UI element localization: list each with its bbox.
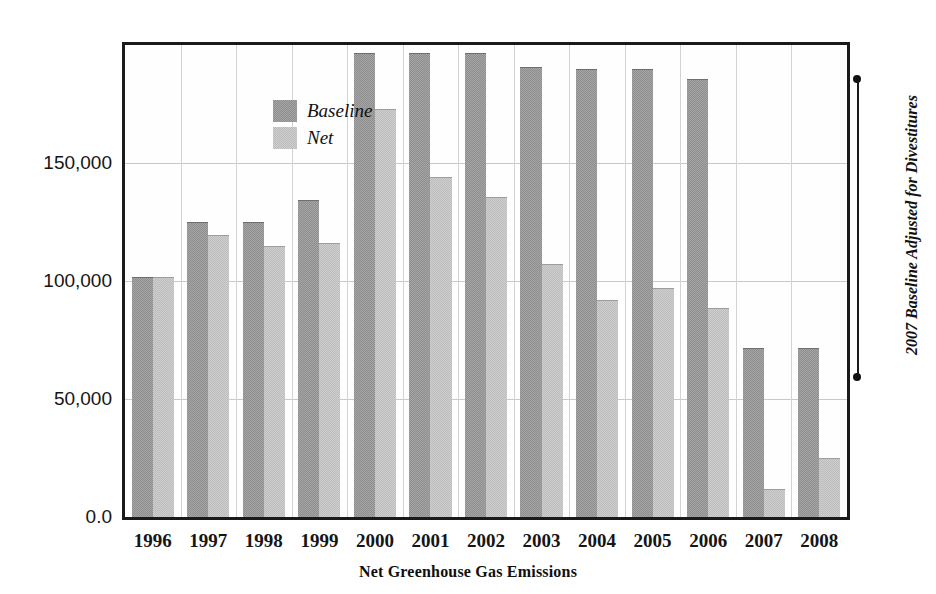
- bar-net-2004: [597, 300, 618, 517]
- gridline-vertical: [569, 45, 570, 517]
- x-axis-title: Net Greenhouse Gas Emissions: [0, 563, 936, 581]
- bar-net-1996: [153, 277, 174, 517]
- annotation-dot-bottom-icon: [853, 373, 861, 381]
- bar-net-2007: [764, 489, 785, 517]
- bar-net-2001: [430, 177, 451, 517]
- x-tick-label-2004: 2004: [566, 530, 628, 552]
- plot-frame: Baseline Net: [122, 42, 850, 520]
- x-tick-label-2006: 2006: [677, 530, 739, 552]
- y-tick-label: 0.0: [6, 506, 112, 528]
- bar-baseline-2005: [632, 69, 653, 517]
- chart-canvas: 150,000100,00050,0000.0 Baseline Net 199…: [0, 0, 936, 594]
- gridline-vertical: [458, 45, 459, 517]
- legend-item-baseline: Baseline: [273, 97, 372, 124]
- bar-net-2000: [375, 109, 396, 517]
- bar-net-2006: [708, 308, 729, 517]
- bar-net-2005: [653, 288, 674, 517]
- bar-baseline-1999: [298, 200, 319, 517]
- bar-baseline-2008: [798, 348, 819, 517]
- x-tick-label-2003: 2003: [511, 530, 573, 552]
- bar-baseline-2002: [465, 53, 486, 517]
- bar-baseline-1996: [132, 277, 153, 517]
- gridline-vertical: [181, 45, 182, 517]
- bar-baseline-2006: [687, 79, 708, 517]
- bar-baseline-2007: [743, 348, 764, 517]
- bar-net-2003: [542, 264, 563, 517]
- bar-net-1999: [319, 243, 340, 517]
- bar-net-1997: [208, 235, 229, 517]
- chart-legend: Baseline Net: [273, 97, 372, 151]
- legend-item-net: Net: [273, 124, 372, 151]
- annotation-bracket-line: [857, 78, 859, 378]
- x-tick-label-2001: 2001: [399, 530, 461, 552]
- gridline-vertical: [736, 45, 737, 517]
- legend-swatch-baseline-icon: [273, 100, 297, 122]
- bar-baseline-1998: [243, 222, 264, 517]
- annotation-label: 2007 Baseline Adjusted for Divestitures: [903, 75, 921, 375]
- plot-area: [125, 45, 847, 517]
- bar-net-2008: [819, 458, 840, 517]
- x-tick-label-2008: 2008: [788, 530, 850, 552]
- y-tick-label: 150,000: [6, 152, 112, 174]
- y-tick-label: 100,000: [6, 270, 112, 292]
- gridline-vertical: [403, 45, 404, 517]
- gridline-vertical: [791, 45, 792, 517]
- x-tick-label-2007: 2007: [733, 530, 795, 552]
- x-tick-label-2005: 2005: [622, 530, 684, 552]
- x-tick-label-1998: 1998: [233, 530, 295, 552]
- bar-baseline-2003: [520, 67, 541, 517]
- gridline-vertical: [236, 45, 237, 517]
- divestiture-annotation: 2007 Baseline Adjusted for Divestitures: [852, 78, 932, 378]
- bar-net-2002: [486, 197, 507, 517]
- legend-swatch-net-icon: [273, 127, 297, 149]
- bar-baseline-2004: [576, 69, 597, 517]
- gridline-vertical: [680, 45, 681, 517]
- bar-baseline-2001: [409, 53, 430, 517]
- x-tick-label-1997: 1997: [177, 530, 239, 552]
- gridline-vertical: [514, 45, 515, 517]
- bar-net-1998: [264, 246, 285, 517]
- legend-label-net: Net: [307, 127, 333, 149]
- legend-label-baseline: Baseline: [307, 100, 372, 122]
- x-tick-label-2000: 2000: [344, 530, 406, 552]
- x-tick-label-2002: 2002: [455, 530, 517, 552]
- bar-baseline-1997: [187, 222, 208, 517]
- x-tick-label-1999: 1999: [288, 530, 350, 552]
- gridline-vertical: [625, 45, 626, 517]
- y-tick-label: 50,000: [6, 388, 112, 410]
- annotation-dot-top-icon: [853, 75, 861, 83]
- x-tick-label-1996: 1996: [122, 530, 184, 552]
- gridline-horizontal: [125, 163, 847, 164]
